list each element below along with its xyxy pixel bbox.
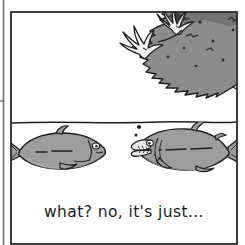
comic-artwork: what? no, it's just... <box>0 0 245 245</box>
caption-text: what? no, it's just... <box>44 203 204 221</box>
comic-panel-root: what? no, it's just... <box>0 0 245 245</box>
